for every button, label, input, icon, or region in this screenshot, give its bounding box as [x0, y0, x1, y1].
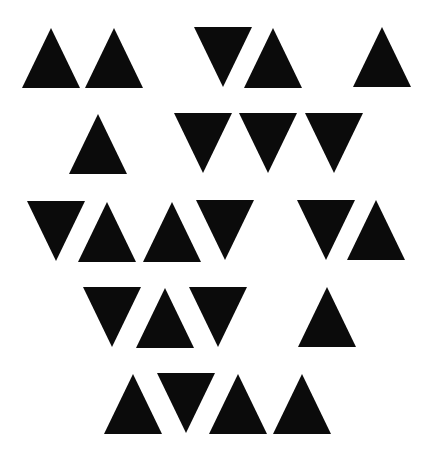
row-4: [83, 287, 356, 348]
triangle-down-icon: [189, 287, 247, 347]
triangle-down-icon: [174, 113, 232, 173]
triangle-down-icon: [239, 113, 297, 173]
triangle-down-icon: [83, 287, 141, 347]
row-5: [104, 373, 331, 434]
triangle-down-icon: [196, 200, 254, 260]
triangle-down-icon: [194, 27, 252, 87]
triangle-up-icon: [143, 202, 201, 262]
triangle-up-icon: [298, 287, 356, 347]
triangle-up-icon: [347, 200, 405, 260]
row-2: [69, 113, 363, 174]
triangle-down-icon: [157, 373, 215, 433]
triangle-up-icon: [209, 374, 267, 434]
triangle-down-icon: [27, 201, 85, 261]
triangle-canvas: [0, 0, 433, 458]
row-3: [27, 200, 405, 262]
triangle-up-icon: [244, 28, 302, 88]
triangle-down-icon: [305, 113, 363, 173]
triangle-up-icon: [22, 28, 80, 88]
triangle-up-icon: [136, 288, 194, 348]
triangle-up-icon: [78, 202, 136, 262]
triangle-field: [0, 0, 433, 458]
row-1: [22, 27, 411, 88]
triangle-up-icon: [353, 27, 411, 87]
triangle-up-icon: [104, 374, 162, 434]
triangle-up-icon: [273, 374, 331, 434]
triangle-down-icon: [297, 200, 355, 260]
triangle-up-icon: [69, 114, 127, 174]
triangle-up-icon: [85, 28, 143, 88]
